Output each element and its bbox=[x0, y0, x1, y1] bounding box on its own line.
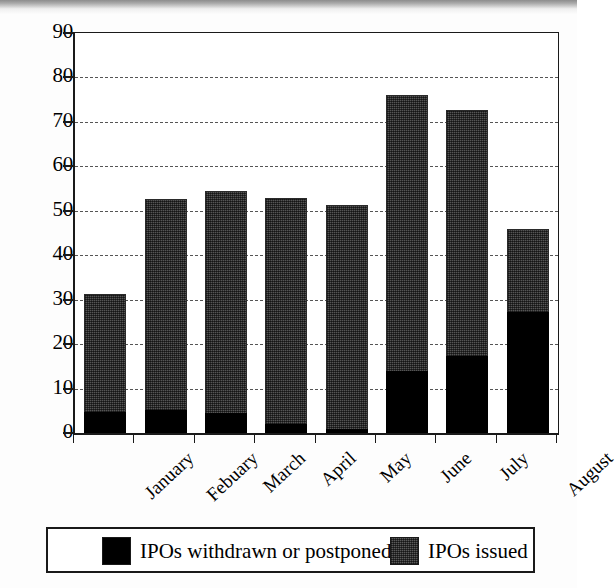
legend-entry: IPOs issued bbox=[390, 536, 528, 566]
legend-label: IPOs issued bbox=[428, 540, 528, 562]
bar-segment-withdrawn bbox=[145, 410, 187, 433]
bar-segment-withdrawn bbox=[205, 413, 247, 433]
y-tick-mark bbox=[63, 210, 73, 212]
x-axis-labels: JanuaryFebuaryMarchAprilMayJuneJulyAugus… bbox=[73, 440, 573, 525]
legend-label: IPOs withdrawn or postponed bbox=[140, 540, 391, 562]
bar-group bbox=[446, 110, 488, 433]
gridline bbox=[75, 77, 558, 78]
bar-group bbox=[84, 294, 126, 433]
bar-group bbox=[326, 205, 368, 433]
x-axis-label: Febuary bbox=[202, 448, 261, 505]
y-axis: 9080706050403020100 bbox=[0, 0, 73, 440]
bar-segment-issued bbox=[145, 199, 187, 433]
bar-group bbox=[145, 199, 187, 433]
y-tick-mark bbox=[63, 121, 73, 123]
y-tick-mark bbox=[63, 432, 73, 434]
bar-group bbox=[386, 95, 428, 433]
y-tick-mark bbox=[63, 165, 73, 167]
scan-artifact-band bbox=[0, 0, 577, 9]
x-axis-label: April bbox=[317, 448, 360, 490]
scan-artifact-fade bbox=[0, 9, 577, 14]
x-axis-label: May bbox=[376, 448, 415, 486]
bar-segment-withdrawn bbox=[446, 356, 488, 433]
bar-segment-issued bbox=[205, 191, 247, 433]
legend-entry: IPOs withdrawn or postponed bbox=[102, 536, 391, 566]
bar-segment-withdrawn bbox=[84, 412, 126, 433]
bar-segment-withdrawn bbox=[386, 371, 428, 433]
y-tick-mark bbox=[63, 343, 73, 345]
x-axis-label: August bbox=[563, 448, 616, 500]
legend-swatch-gray bbox=[390, 537, 419, 565]
y-tick-mark bbox=[63, 254, 73, 256]
legend-swatch-black bbox=[102, 537, 131, 565]
chart-legend: IPOs withdrawn or postponedIPOs issued bbox=[46, 527, 535, 573]
x-axis-label: June bbox=[436, 448, 475, 486]
bar-segment-withdrawn bbox=[265, 424, 307, 433]
bar-group bbox=[507, 229, 549, 433]
plot-area bbox=[73, 32, 559, 435]
x-axis-label: March bbox=[259, 448, 309, 496]
y-tick-mark bbox=[63, 76, 73, 78]
y-tick-mark bbox=[63, 388, 73, 390]
bar-group bbox=[205, 191, 247, 433]
x-axis-label: January bbox=[141, 448, 198, 503]
bar-segment-withdrawn bbox=[326, 429, 368, 433]
x-axis-label: July bbox=[496, 448, 533, 484]
bar-segment-issued bbox=[265, 198, 307, 433]
y-tick-mark bbox=[63, 299, 73, 301]
bar-group bbox=[265, 198, 307, 433]
bar-segment-issued bbox=[326, 205, 368, 433]
bar-segment-withdrawn bbox=[507, 312, 549, 433]
y-tick-mark bbox=[63, 32, 73, 34]
